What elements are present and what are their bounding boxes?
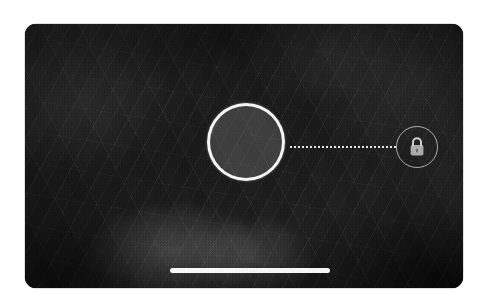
- lock-closed-icon: [407, 136, 427, 158]
- home-indicator[interactable]: Home indicator: [170, 268, 330, 273]
- focus-reticle[interactable]: Focus and exposure reticle: [207, 103, 285, 181]
- connector-label: Dotted connector line: [290, 146, 291, 147]
- reticle-lock-connector: Dotted connector line: [290, 146, 396, 148]
- home-indicator-label: Home indicator: [170, 268, 171, 269]
- device-screen: Focus and exposure reticle Dotted connec…: [25, 24, 463, 288]
- ae-af-lock-button[interactable]: AE/AF Lock: [396, 126, 438, 168]
- screenshot-root: Focus and exposure reticle Dotted connec…: [0, 0, 485, 299]
